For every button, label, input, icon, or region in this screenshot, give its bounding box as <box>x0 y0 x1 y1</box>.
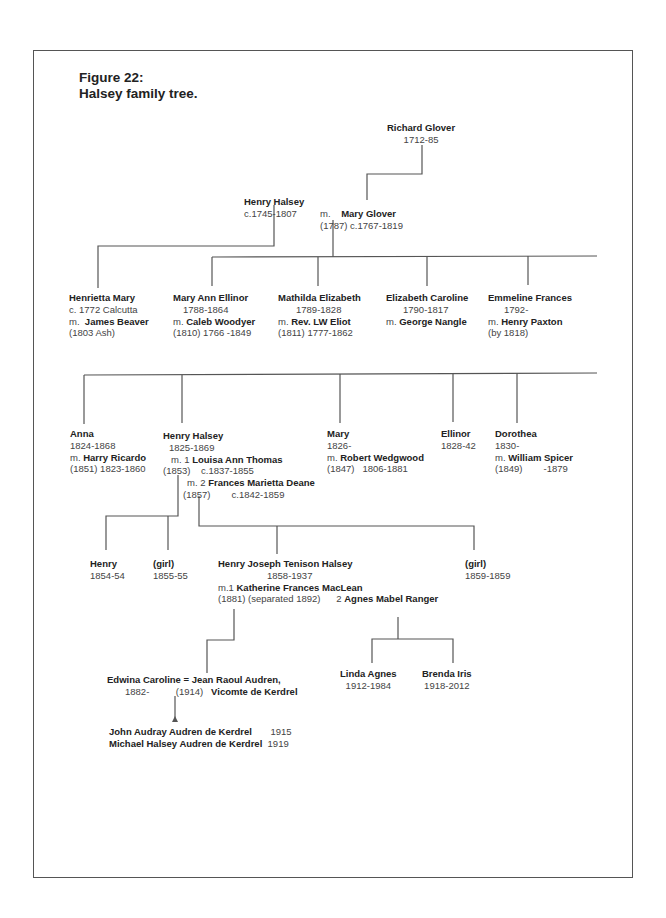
person-elizabeth-caroline: Elizabeth Caroline 1790-1817 m. George N… <box>386 292 468 327</box>
person-linda-agnes: Linda Agnes 1912-1984 <box>340 668 397 692</box>
connector-katherine-to-edwina <box>207 609 234 673</box>
person-emmeline-frances: Emmeline Frances 1792- m. Henry Paxton (… <box>488 292 572 339</box>
person-girl-1855: (girl) 1855-55 <box>153 558 188 582</box>
arrowhead-icon <box>172 716 178 722</box>
person-mary-glover: m. Mary Glover (1787) c.1767-1819 <box>320 208 403 232</box>
gen2-sibling-bar <box>212 256 597 257</box>
person-dorothea: Dorothea 1830- m. William Spicer (1849) … <box>495 428 573 475</box>
person-henry-joseph-tenison-halsey: Henry Joseph Tenison Halsey 1858-1937 m.… <box>218 558 438 605</box>
person-mathilda-elizabeth: Mathilda Elizabeth 1789-1828 m. Rev. LW … <box>278 292 361 339</box>
connector-m2-children <box>199 496 474 550</box>
person-brenda-iris: Brenda Iris 1918-2012 <box>422 668 472 692</box>
person-girl-1859: (girl) 1859-1859 <box>465 558 510 582</box>
connector-agnes-children <box>372 639 453 663</box>
person-john-audray: John Audray Audren de Kerdrel 1915 <box>109 726 292 738</box>
person-mary-ann-ellinor: Mary Ann Ellinor 1788-1864 m. Caleb Wood… <box>173 292 255 339</box>
person-michael-halsey: Michael Halsey Audren de Kerdrel 1919 <box>109 738 292 750</box>
person-henrietta-mary: Henrietta Mary c. 1772 Calcutta m. James… <box>69 292 149 339</box>
person-ellinor: Ellinor 1828-42 <box>441 428 476 452</box>
person-edwina-caroline: Edwina Caroline = Jean Raoul Audren, 188… <box>107 674 298 698</box>
person-henry-halsey-1825: Henry Halsey 1825-1869 m. 1 Louisa Ann T… <box>163 430 315 501</box>
children-audren-de-kerdrel: John Audray Audren de Kerdrel 1915 Micha… <box>109 726 292 750</box>
person-henry-1854: Henry 1854-54 <box>90 558 125 582</box>
person-anna: Anna 1824-1868 m. Harry Ricardo (1851) 1… <box>70 428 146 475</box>
person-henry-halsey-sr: Henry Halsey c.1745-1807 <box>244 196 304 220</box>
person-mary-1826: Mary 1826- m. Robert Wedgwood (1847) 180… <box>327 428 424 475</box>
person-richard-glover: Richard Glover 1712-85 <box>387 122 455 146</box>
connector-richard-to-mary <box>367 145 422 200</box>
